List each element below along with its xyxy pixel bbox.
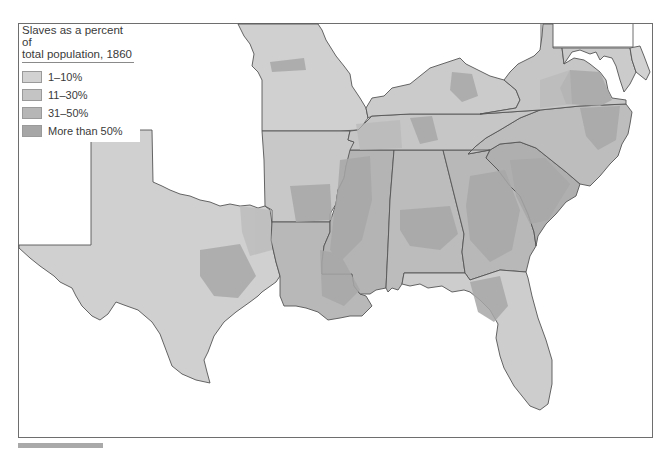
legend-swatch <box>22 89 42 101</box>
legend-item-11-30: 11–30% <box>22 86 140 104</box>
state-missouri <box>238 24 368 131</box>
shade-arkansas-south <box>290 184 332 222</box>
legend: Slaves as a percent of total population,… <box>19 24 140 142</box>
legend-item-31-50: 31–50% <box>22 104 140 122</box>
legend-title-line2: total population, 1860 <box>22 48 134 60</box>
legend-title: Slaves as a percent of total population,… <box>22 24 134 63</box>
legend-label: 1–10% <box>48 71 82 83</box>
legend-swatch <box>22 71 42 83</box>
shade-tennessee-west <box>356 120 402 150</box>
legend-label: 11–30% <box>48 89 88 101</box>
legend-label: More than 50% <box>48 125 123 137</box>
legend-item-more-than-50: More than 50% <box>22 122 140 140</box>
legend-title-line1: Slaves as a percent of <box>22 24 134 48</box>
legend-item-1-10: 1–10% <box>22 68 140 86</box>
scale-bar <box>18 443 103 448</box>
legend-label: 31–50% <box>48 107 88 119</box>
inset-border <box>541 24 633 47</box>
legend-swatch <box>22 125 42 137</box>
state-kentucky <box>366 58 520 118</box>
legend-swatch <box>22 107 42 119</box>
